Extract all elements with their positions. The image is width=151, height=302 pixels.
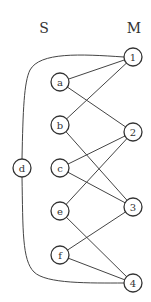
node-a: a <box>51 73 69 91</box>
edge-e-2 <box>60 132 133 211</box>
node-b: b <box>51 116 69 134</box>
svg-text:c: c <box>57 163 63 174</box>
svg-text:b: b <box>57 120 63 131</box>
edge-a-2 <box>60 82 133 132</box>
edge-d-1 <box>22 55 124 159</box>
edge-f-4 <box>60 255 133 283</box>
node-e: e <box>51 202 69 220</box>
edge-f-3 <box>60 207 133 255</box>
edge-e-4 <box>60 211 133 283</box>
node-f: f <box>51 246 69 264</box>
edge-c-3 <box>60 168 133 207</box>
svg-text:d: d <box>19 163 26 174</box>
edge-a-1 <box>60 57 133 82</box>
edge-d-4 <box>22 177 124 283</box>
svg-text:2: 2 <box>130 127 136 138</box>
node-4: 4 <box>124 274 142 292</box>
nodes: a b c d e f 1 2 3 4 <box>13 48 142 292</box>
set-label-m: M <box>127 20 141 36</box>
node-3: 3 <box>124 198 142 216</box>
svg-text:a: a <box>57 77 63 88</box>
svg-text:3: 3 <box>130 202 136 213</box>
set-label-s: S <box>39 20 49 36</box>
edge-b-1 <box>60 57 133 125</box>
node-c: c <box>51 159 69 177</box>
node-d: d <box>13 159 31 177</box>
edges <box>22 55 133 283</box>
svg-text:e: e <box>57 206 63 217</box>
node-1: 1 <box>124 48 142 66</box>
bipartite-graph: S M a b c d e f 1 2 3 4 <box>0 0 151 302</box>
svg-text:1: 1 <box>130 52 136 63</box>
node-2: 2 <box>124 123 142 141</box>
svg-text:4: 4 <box>130 278 136 289</box>
